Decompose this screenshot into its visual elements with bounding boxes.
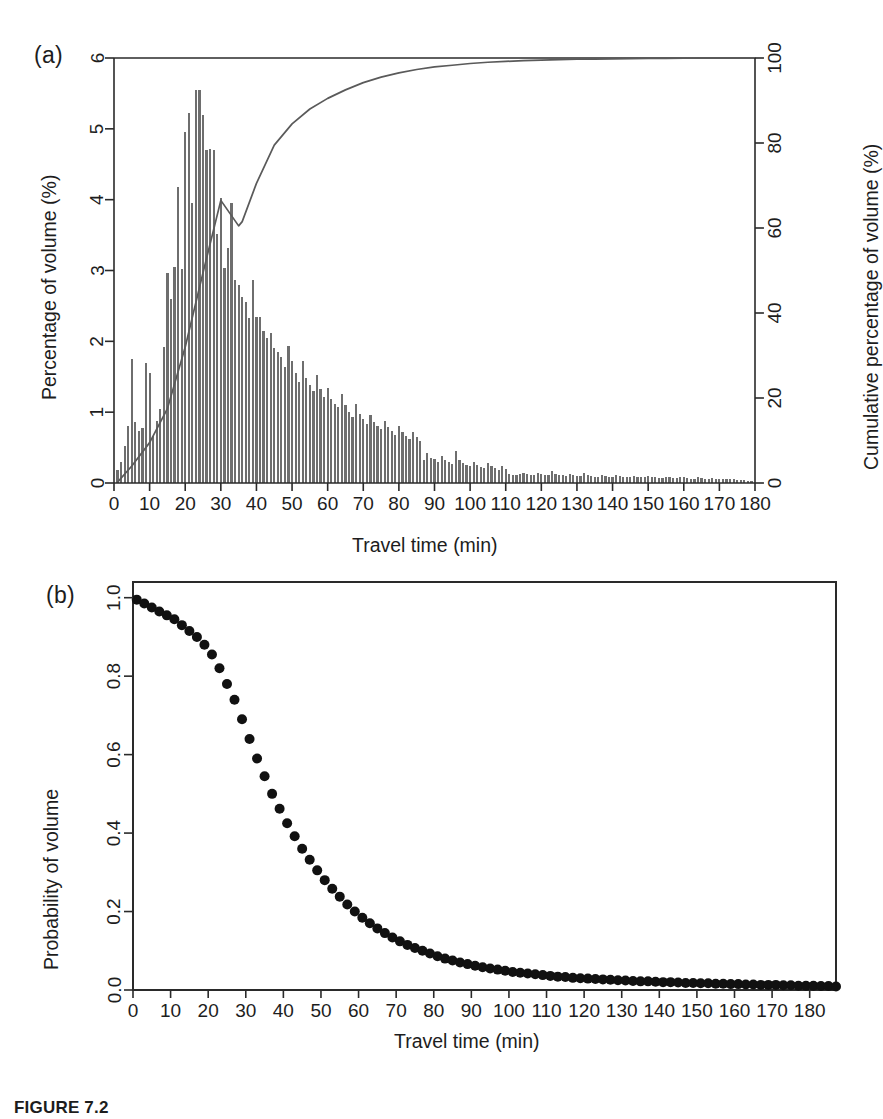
- histogram-bar: [487, 463, 489, 483]
- scatter-point: [245, 734, 255, 744]
- histogram-bar: [209, 149, 211, 483]
- panel-a-y2-tick-label: 80: [764, 132, 785, 153]
- histogram-bar: [451, 464, 453, 483]
- histogram-bar: [362, 419, 364, 483]
- histogram-bar: [273, 348, 275, 483]
- panel-a-x-tick-label: 120: [525, 493, 557, 514]
- histogram-bar: [376, 426, 378, 483]
- histogram-bar: [458, 460, 460, 483]
- panel-a-x-tick-label: 90: [424, 493, 445, 514]
- panel-b-x-tick-label: 40: [273, 1000, 294, 1020]
- histogram-bar: [544, 475, 546, 484]
- histogram-bar: [668, 477, 670, 483]
- panel-a-y2-tick-label: 0: [764, 478, 785, 489]
- histogram-bar: [173, 267, 175, 483]
- histogram-bar: [141, 428, 143, 483]
- histogram-bar: [220, 198, 222, 483]
- histogram-bar: [341, 394, 343, 483]
- panel-b-y-tick-label: 0.0: [104, 977, 125, 1003]
- panel-a-x-tick-label: 110: [491, 493, 521, 514]
- panel-a-x-tick-label: 10: [139, 493, 160, 514]
- histogram-bar: [416, 437, 418, 483]
- panel-b-y-axis-title: Probability of volume: [40, 789, 63, 970]
- histogram-bar: [380, 429, 382, 483]
- histogram-bar: [245, 302, 247, 483]
- panel-b-x-tick-label: 70: [386, 1000, 407, 1020]
- panel-a-y-tick-label: 6: [87, 53, 108, 64]
- scatter-point: [267, 789, 277, 799]
- histogram-bar: [583, 473, 585, 483]
- histogram-bar: [501, 466, 503, 483]
- panel-b-x-tick-label: 60: [348, 1000, 369, 1020]
- histogram-bar: [462, 463, 464, 483]
- histogram-bar: [597, 477, 599, 483]
- panel-b-x-tick-label: 110: [531, 1000, 561, 1020]
- panel-a-y-tick-label: 0: [87, 478, 108, 489]
- histogram-bar: [384, 421, 386, 483]
- histogram-bar: [291, 361, 293, 483]
- panel-a-x-tick-label: 140: [597, 493, 629, 514]
- histogram-bar: [216, 234, 218, 483]
- histogram-bar: [626, 477, 628, 483]
- histogram-bar: [223, 268, 225, 483]
- histogram-bar: [654, 477, 656, 483]
- histogram-bar: [166, 273, 168, 483]
- panel-a-y-tick-label: 5: [87, 124, 108, 135]
- scatter-point: [252, 754, 262, 764]
- histogram-bar: [394, 435, 396, 483]
- panel-a-x-tick-label: 20: [175, 493, 196, 514]
- histogram-bar: [330, 399, 332, 483]
- histogram-bar: [302, 361, 304, 483]
- histogram-bar: [181, 269, 183, 483]
- panel-b-x-tick-label: 0: [128, 1000, 139, 1020]
- panel-a-x-tick-label: 60: [317, 493, 338, 514]
- histogram-bar: [455, 451, 457, 483]
- scatter-point: [335, 892, 345, 902]
- histogram-bar: [248, 318, 250, 483]
- panel-b-x-tick-label: 10: [160, 1000, 181, 1020]
- histogram-bar: [348, 412, 350, 483]
- panel-a-y2-tick-label: 100: [764, 42, 785, 74]
- panel-b-x-tick-label: 160: [719, 1000, 751, 1020]
- panel-a-bars: [116, 90, 752, 483]
- histogram-bar: [558, 475, 560, 484]
- panel-b-points: [132, 595, 841, 992]
- panel-a-x-tick-label: 0: [109, 493, 120, 514]
- histogram-bar: [505, 469, 507, 483]
- histogram-bar: [184, 132, 186, 483]
- panel-a-plot: 0123456020406080100010203040506070809010…: [0, 0, 883, 530]
- panel-b-plot: 0.00.20.40.60.81.00102030405060708090100…: [0, 540, 883, 1020]
- histogram-bar: [387, 427, 389, 483]
- histogram-bar: [619, 476, 621, 483]
- panel-a-x-tick-label: 40: [246, 493, 267, 514]
- histogram-bar: [319, 389, 321, 483]
- histogram-bar: [515, 475, 517, 484]
- panel-b-x-tick-label: 170: [756, 1000, 788, 1020]
- histogram-bar: [398, 426, 400, 483]
- histogram-bar: [344, 405, 346, 483]
- histogram-bar: [508, 474, 510, 483]
- scatter-point: [237, 714, 247, 724]
- histogram-bar: [537, 473, 539, 483]
- histogram-bar: [562, 475, 564, 483]
- histogram-bar: [252, 280, 254, 483]
- histogram-bar: [369, 415, 371, 483]
- panel-a-y-tick-label: 3: [87, 265, 108, 276]
- histogram-bar: [408, 439, 410, 483]
- panel-b-x-tick-label: 150: [681, 1000, 713, 1020]
- histogram-bar: [622, 477, 624, 483]
- panel-b-x-tick-label: 120: [568, 1000, 600, 1020]
- histogram-bar: [526, 474, 528, 483]
- scatter-point: [192, 632, 202, 642]
- histogram-bar: [323, 397, 325, 483]
- scatter-point: [297, 844, 307, 854]
- scatter-point: [275, 804, 285, 814]
- histogram-bar: [213, 150, 215, 483]
- panel-b-label: (b): [46, 582, 75, 609]
- histogram-bar: [547, 475, 549, 483]
- panel-a-x-tick-label: 170: [704, 493, 736, 514]
- panel-b-x-tick-label: 180: [794, 1000, 826, 1020]
- histogram-bar: [191, 203, 193, 483]
- panel-b-x-tick-label: 20: [198, 1000, 219, 1020]
- panel-b-x-tick-label: 80: [423, 1000, 444, 1020]
